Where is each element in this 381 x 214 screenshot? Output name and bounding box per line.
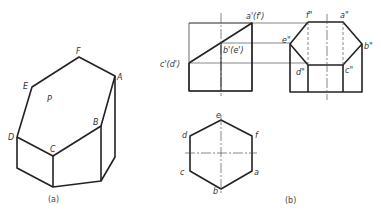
label-P: P <box>47 95 52 104</box>
label-e: e <box>216 111 221 120</box>
label-b-dprime: b" <box>364 42 373 51</box>
label-F: F <box>76 47 81 56</box>
projection-drawing: F A E P B C D (a) a'(f') b'(e') c'(d') f… <box>0 0 381 214</box>
caption-b: (b) <box>285 196 296 205</box>
front-view: a'(f') b'(e') c'(d') <box>160 12 264 96</box>
label-E: E <box>23 82 29 91</box>
label-a-prime: a'(f') <box>246 12 264 21</box>
label-c-prime: c'(d') <box>160 60 180 69</box>
label-A: A <box>116 73 122 82</box>
top-view: e d f c a b (b) <box>180 111 296 205</box>
label-d: d <box>182 131 188 140</box>
label-f-dprime: f" <box>306 11 313 20</box>
label-b: b <box>213 187 218 196</box>
side-view: f" a" e" b" d" c" <box>282 11 373 100</box>
label-f: f <box>255 131 259 140</box>
side-view-inner <box>290 44 362 65</box>
label-a-dprime: a" <box>340 11 349 20</box>
label-d-dprime: d" <box>296 68 305 77</box>
label-B: B <box>93 118 99 127</box>
label-c-dprime: c" <box>345 66 353 75</box>
label-D: D <box>8 133 14 142</box>
caption-a: (a) <box>48 195 59 204</box>
isometric-solid: F A E P B C D (a) <box>8 47 122 204</box>
label-c: c <box>180 168 185 177</box>
label-b-prime: b'(e') <box>223 46 244 55</box>
label-C: C <box>50 145 56 154</box>
label-a: a <box>254 168 259 177</box>
label-e-dprime: e" <box>282 36 291 45</box>
